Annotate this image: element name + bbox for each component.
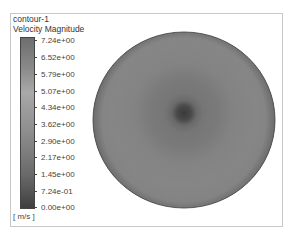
disk-edge-shading xyxy=(93,32,275,208)
colorbar-tick xyxy=(34,107,37,108)
colorbar-tick xyxy=(34,57,37,58)
colorbar-tick xyxy=(34,157,37,158)
colorbar-label: 0.00e+00 xyxy=(41,203,75,212)
colorbar-tick xyxy=(34,207,37,208)
colorbar-tick xyxy=(34,141,37,142)
colorbar-tick xyxy=(34,174,37,175)
colorbar-label: 7.24e+00 xyxy=(41,36,75,45)
units-label: [ m/s ] xyxy=(13,212,35,221)
colorbar-label: 6.52e+00 xyxy=(41,53,75,62)
contour-plot xyxy=(80,25,280,220)
variable-title: Velocity Magnitude xyxy=(13,24,84,34)
colorbar-label: 7.24e-01 xyxy=(41,187,73,196)
colorbar-tick xyxy=(34,40,37,41)
colorbar-tick xyxy=(34,91,37,92)
colorbar xyxy=(20,37,35,209)
colorbar-tick xyxy=(34,191,37,192)
colorbar-label: 2.90e+00 xyxy=(41,137,75,146)
colorbar-label: 1.45e+00 xyxy=(41,170,75,179)
colorbar-tick xyxy=(34,74,37,75)
colorbar-label: 2.17e+00 xyxy=(41,153,75,162)
colorbar-tick xyxy=(34,124,37,125)
colorbar-label: 5.07e+00 xyxy=(41,87,75,96)
colorbar-label: 3.62e+00 xyxy=(41,120,75,129)
contour-title: contour-1 xyxy=(13,14,49,24)
colorbar-label: 5.79e+00 xyxy=(41,70,75,79)
colorbar-label: 4.34e+00 xyxy=(41,103,75,112)
